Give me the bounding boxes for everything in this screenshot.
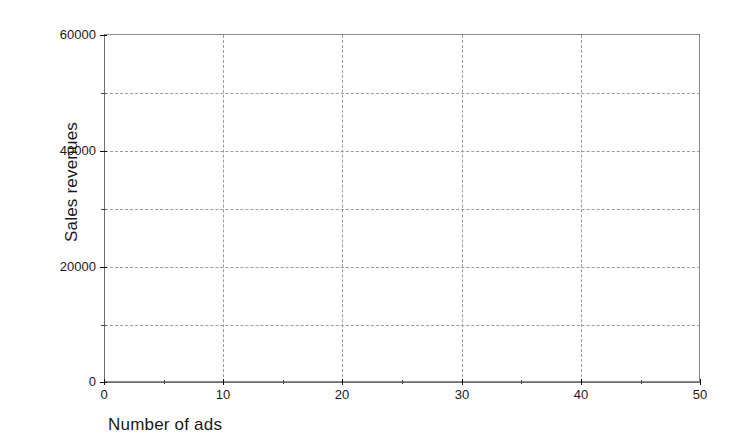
y-axis-tick-label: 0: [36, 375, 96, 389]
y-axis-minor-tick: [101, 325, 106, 326]
x-axis-title: Number of ads: [108, 414, 222, 435]
x-axis-tick: [342, 379, 343, 385]
x-axis-tick-label: 30: [432, 387, 492, 402]
x-axis-tick-label: 50: [670, 387, 730, 402]
y-axis-minor-tick: [101, 209, 106, 210]
y-axis-minor-tick: [101, 93, 106, 94]
y-axis-tick: [100, 35, 107, 36]
x-axis-minor-tick: [164, 380, 165, 384]
x-axis-tick-label: 10: [193, 387, 253, 402]
x-axis-minor-tick: [521, 380, 522, 384]
y-axis-tick-label: 60000: [36, 28, 96, 42]
gridline-horizontal: [105, 151, 700, 152]
x-axis-tick: [700, 379, 701, 385]
y-axis-title: Sales revenues: [62, 122, 82, 242]
x-axis-minor-tick: [283, 380, 284, 384]
gridline-horizontal: [105, 325, 700, 326]
x-axis-tick-label: 40: [551, 387, 611, 402]
x-axis-tick: [223, 379, 224, 385]
gridline-horizontal: [105, 93, 700, 94]
plot-area: [104, 34, 700, 382]
y-axis-title-wrapper: Sales revenues: [44, 122, 66, 292]
chart-figure: 01020304050 6000040000200000 Number of a…: [0, 0, 739, 443]
x-axis-tick: [581, 379, 582, 385]
y-axis-tick: [100, 382, 107, 383]
gridline-horizontal: [105, 267, 700, 268]
x-axis-tick-label: 20: [312, 387, 372, 402]
x-axis-minor-tick: [402, 380, 403, 384]
x-axis-tick: [462, 379, 463, 385]
gridline-horizontal: [105, 209, 700, 210]
y-axis-tick: [100, 151, 107, 152]
x-axis-minor-tick: [641, 380, 642, 384]
y-axis-tick: [100, 267, 107, 268]
